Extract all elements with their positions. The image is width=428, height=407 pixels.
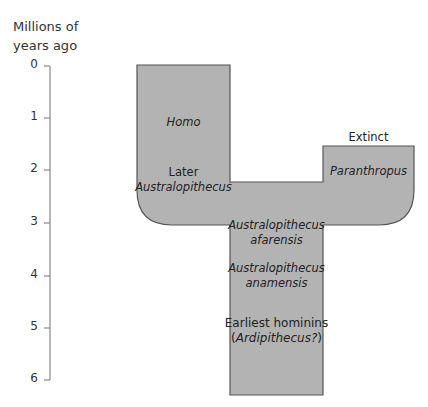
- tick-label-1: 1: [18, 109, 38, 123]
- tick-label-3: 3: [18, 214, 38, 228]
- label-earliest-line1: Earliest hominins: [222, 316, 331, 331]
- label-paranthropus: Paranthropus: [323, 164, 414, 179]
- label-extinct: Extinct: [323, 130, 414, 145]
- label-later-line1: Later: [130, 165, 237, 180]
- label-anamensis-line1: Australopithecus: [222, 261, 331, 276]
- label-later-line2: Australopithecus: [130, 180, 237, 195]
- label-afarensis-line2: afarensis: [222, 233, 331, 248]
- tick-label-2: 2: [18, 161, 38, 175]
- label-ardipithecus: Ardipithecus?: [236, 331, 318, 345]
- paren-close: ): [317, 331, 322, 345]
- label-homo: Homo: [137, 115, 230, 130]
- tick-label-4: 4: [18, 267, 38, 281]
- tick-label-6: 6: [18, 371, 38, 385]
- label-earliest-line2: (Ardipithecus?): [222, 331, 331, 346]
- label-afarensis-line1: Australopithecus: [222, 218, 331, 233]
- axis-ticks: [44, 66, 50, 380]
- tick-label-0: 0: [18, 57, 38, 71]
- label-later-australopithecus: Later Australopithecus: [130, 165, 237, 195]
- label-earliest-hominins: Earliest hominins (Ardipithecus?): [222, 316, 331, 346]
- label-anamensis-line2: anamensis: [222, 276, 331, 291]
- evolution-diagram: [0, 0, 428, 407]
- tick-label-5: 5: [18, 319, 38, 333]
- label-afarensis: Australopithecus afarensis: [222, 218, 331, 248]
- label-anamensis: Australopithecus anamensis: [222, 261, 331, 291]
